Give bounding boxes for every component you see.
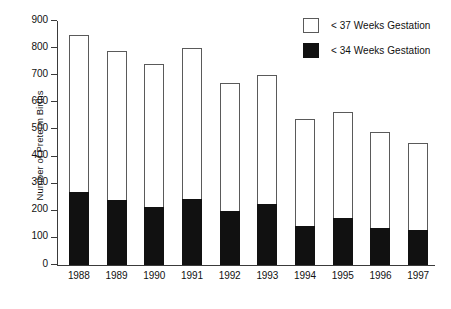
y-tick-label-200: 200 bbox=[32, 203, 48, 214]
y-tick-label-400: 400 bbox=[32, 149, 48, 160]
legend-item-lt37: < 37 Weeks Gestation bbox=[303, 14, 451, 36]
chart-legend: < 37 Weeks Gestation < 34 Weeks Gestatio… bbox=[303, 14, 451, 64]
x-tick-label-1988: 1988 bbox=[61, 270, 97, 281]
x-tick-label-1989: 1989 bbox=[99, 270, 135, 281]
y-tick-label-300: 300 bbox=[32, 176, 48, 187]
bar-group-1992: 1992 bbox=[220, 21, 240, 265]
legend-item-lt34: < 34 Weeks Gestation bbox=[303, 39, 451, 61]
x-tick-label-1995: 1995 bbox=[325, 270, 361, 281]
bar-group-1989: 1989 bbox=[107, 21, 127, 265]
bar-group-1988: 1988 bbox=[69, 21, 89, 265]
bar-lt34-1991 bbox=[182, 199, 202, 265]
y-tick-600: 600 bbox=[51, 101, 57, 102]
y-tick-label-0: 0 bbox=[43, 258, 48, 269]
x-tick-label-1991: 1991 bbox=[174, 270, 210, 281]
x-tick-label-1996: 1996 bbox=[362, 270, 398, 281]
bar-lt34-1994 bbox=[295, 226, 315, 265]
x-tick-label-1992: 1992 bbox=[212, 270, 248, 281]
bar-group-1991: 1991 bbox=[182, 21, 202, 265]
bar-lt34-1989 bbox=[107, 200, 127, 265]
y-tick-700: 700 bbox=[51, 74, 57, 75]
legend-label-lt37: < 37 Weeks Gestation bbox=[331, 20, 430, 31]
bar-group-1990: 1990 bbox=[144, 21, 164, 265]
bar-lt34-1997 bbox=[408, 230, 428, 265]
y-tick-label-100: 100 bbox=[32, 230, 48, 241]
y-tick-label-800: 800 bbox=[32, 41, 48, 52]
bar-lt34-1988 bbox=[69, 192, 89, 265]
bar-lt34-1996 bbox=[370, 228, 390, 265]
y-tick-900: 900 bbox=[51, 20, 57, 21]
x-tick-label-1993: 1993 bbox=[249, 270, 285, 281]
x-tick-label-1997: 1997 bbox=[400, 270, 436, 281]
x-tick-label-1990: 1990 bbox=[136, 270, 172, 281]
y-tick-300: 300 bbox=[51, 183, 57, 184]
y-tick-label-700: 700 bbox=[32, 68, 48, 79]
y-tick-800: 800 bbox=[51, 47, 57, 48]
y-tick-label-500: 500 bbox=[32, 122, 48, 133]
y-tick-100: 100 bbox=[51, 237, 57, 238]
y-tick-label-600: 600 bbox=[32, 95, 48, 106]
y-tick-label-900: 900 bbox=[32, 14, 48, 25]
bar-lt34-1992 bbox=[220, 211, 240, 265]
filled-square-swatch-icon bbox=[303, 43, 319, 58]
bar-lt34-1990 bbox=[144, 207, 164, 265]
bar-group-1993: 1993 bbox=[257, 21, 277, 265]
y-tick-400: 400 bbox=[51, 156, 57, 157]
y-tick-500: 500 bbox=[51, 128, 57, 129]
y-tick-0: 0 bbox=[51, 264, 57, 265]
legend-label-lt34: < 34 Weeks Gestation bbox=[331, 45, 430, 56]
bar-lt34-1995 bbox=[333, 218, 353, 265]
preterm-births-bar-chart: Number of Preterm Births 010020030040050… bbox=[0, 0, 451, 309]
y-tick-200: 200 bbox=[51, 210, 57, 211]
x-axis-line bbox=[57, 265, 435, 266]
open-square-swatch-icon bbox=[303, 18, 319, 33]
x-tick-label-1994: 1994 bbox=[287, 270, 323, 281]
y-axis-line bbox=[57, 21, 58, 266]
bar-lt34-1993 bbox=[257, 204, 277, 265]
